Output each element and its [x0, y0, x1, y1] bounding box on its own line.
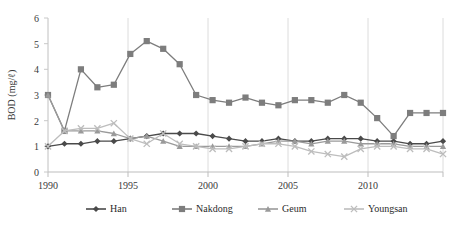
- bod-line-chart-figure: 6 5 4 3 2 1 0 1990 1995 2000 2005 2010 B…: [0, 0, 469, 231]
- marker-nakdong-1992: [78, 66, 84, 72]
- legend-label-han: Han: [110, 203, 127, 214]
- y-tick-label-0: 0: [34, 167, 39, 178]
- y-tick-label-6: 6: [34, 13, 39, 24]
- marker-nakdong-2001: [226, 100, 232, 106]
- marker-nakdong-1999: [193, 92, 199, 98]
- marker-nakdong-2000: [209, 97, 215, 103]
- y-tick-label-1: 1: [34, 141, 39, 152]
- x-tick-label-1990: 1990: [38, 180, 58, 191]
- marker-nakdong-2009: [358, 100, 364, 106]
- x-tick-label-1995: 1995: [118, 180, 138, 191]
- chart-canvas: 6 5 4 3 2 1 0 1990 1995 2000 2005 2010 B…: [0, 0, 469, 231]
- chart-background: [0, 0, 469, 231]
- marker-nakdong-2007: [325, 100, 331, 106]
- marker-nakdong-2006: [308, 97, 314, 103]
- x-tick-label-2000: 2000: [198, 180, 218, 191]
- marker-nakdong-2014: [440, 110, 446, 116]
- marker-nakdong-2005: [292, 97, 298, 103]
- marker-nakdong-2012: [407, 110, 413, 116]
- y-axis-title: BOD (mg/ℓ): [6, 70, 18, 121]
- y-tick-label-2: 2: [34, 116, 39, 127]
- y-tick-label-3: 3: [34, 90, 39, 101]
- legend-label-geum: Geum: [282, 203, 307, 214]
- marker-nakdong-2013: [423, 110, 429, 116]
- marker-nakdong-1993: [94, 84, 100, 90]
- legend-marker-nakdong: [179, 206, 185, 212]
- marker-nakdong-2003: [259, 100, 265, 106]
- marker-nakdong-1996: [144, 38, 150, 44]
- marker-nakdong-1997: [160, 46, 166, 52]
- marker-nakdong-1994: [111, 82, 117, 88]
- marker-nakdong-2010: [374, 115, 380, 121]
- marker-nakdong-2002: [242, 94, 248, 100]
- marker-nakdong-2011: [391, 133, 397, 139]
- y-tick-label-4: 4: [34, 64, 39, 75]
- marker-nakdong-1995: [127, 51, 133, 57]
- marker-nakdong-1998: [177, 61, 183, 67]
- legend-label-youngsan: Youngsan: [368, 203, 408, 214]
- y-tick-label-5: 5: [34, 39, 39, 50]
- marker-nakdong-2004: [275, 102, 281, 108]
- marker-nakdong-2008: [341, 92, 347, 98]
- x-tick-label-2010: 2010: [358, 180, 378, 191]
- x-tick-label-2005: 2005: [278, 180, 298, 191]
- legend-label-nakdong: Nakdong: [196, 203, 233, 214]
